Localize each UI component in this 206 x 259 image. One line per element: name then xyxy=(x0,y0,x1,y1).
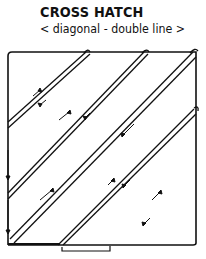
hatch-line-1 xyxy=(8,50,90,128)
bottom-bracket xyxy=(62,246,110,251)
direction-arrows xyxy=(6,88,162,234)
hatch-line-3 xyxy=(10,49,198,243)
box-outline xyxy=(8,52,196,245)
cross-hatch-illustration xyxy=(0,0,206,259)
